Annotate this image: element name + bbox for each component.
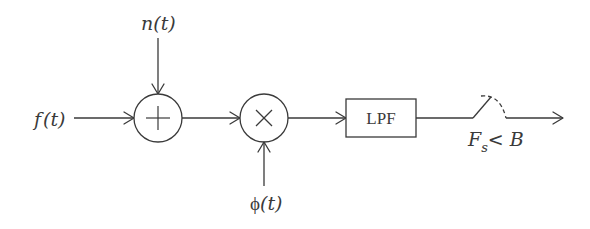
block-diagram: f(t) n(t) ϕ(t) LPF xyxy=(0,0,590,229)
lpf-block: LPF xyxy=(346,99,416,137)
sampling-condition-label: Fs< B xyxy=(467,128,524,155)
sum-junction xyxy=(134,94,182,142)
phi-symbol: ϕ xyxy=(250,193,260,214)
input-label-n: n(t) xyxy=(141,12,176,34)
input-label-f: f(t) xyxy=(32,108,66,130)
switch-arm xyxy=(473,97,491,118)
fs-symbol: F xyxy=(467,128,482,150)
switch-dashed-arc xyxy=(481,96,506,118)
n-arg: (t) xyxy=(153,12,175,34)
lpf-label: LPF xyxy=(366,109,395,128)
sampling-switch xyxy=(473,96,506,118)
multiplier-junction xyxy=(240,94,288,142)
input-label-phi: ϕ(t) xyxy=(250,192,282,214)
n-symbol: n xyxy=(141,12,153,34)
f-arg: (t) xyxy=(43,108,65,130)
fs-condition: < B xyxy=(488,128,524,150)
phi-arg: (t) xyxy=(260,192,282,214)
